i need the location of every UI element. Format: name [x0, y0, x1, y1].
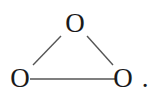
trailing-period: . — [142, 63, 149, 92]
bond-top-left — [33, 36, 61, 65]
atom-top: O — [65, 8, 85, 38]
bond-top-right — [87, 36, 113, 65]
atom-bottom-left: O — [10, 63, 30, 92]
atom-bottom-right: O — [113, 63, 133, 92]
cyclic-ozone-diagram: O O O . — [0, 0, 155, 92]
